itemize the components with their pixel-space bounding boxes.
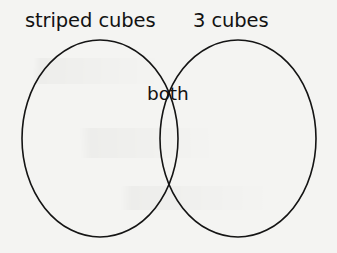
venn-circles-graphic bbox=[0, 0, 337, 253]
venn-circle-right bbox=[160, 40, 316, 237]
venn-circle-left bbox=[22, 40, 178, 237]
venn-label-left-set: striped cubes bbox=[25, 11, 156, 31]
venn-diagram-figure: striped cubes 3 cubes both bbox=[0, 0, 337, 253]
venn-label-intersection: both bbox=[147, 85, 189, 104]
venn-label-right-set: 3 cubes bbox=[193, 11, 269, 31]
